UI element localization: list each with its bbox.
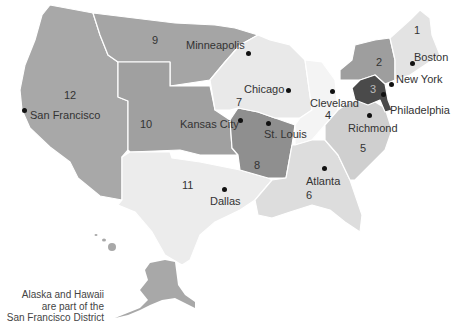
city-cleveland: Cleveland bbox=[310, 98, 359, 109]
chicago-dot-icon bbox=[286, 88, 291, 93]
district-3-number: 3 bbox=[370, 84, 376, 95]
district-8-number: 8 bbox=[254, 160, 260, 171]
city-kansas-city: Kansas City bbox=[180, 119, 239, 130]
district-1-region[interactable] bbox=[390, 10, 440, 80]
st-louis-dot-icon bbox=[266, 121, 271, 126]
hawaii-island bbox=[95, 234, 98, 236]
note-line-2: are part of the bbox=[2, 301, 104, 313]
district-6-number: 6 bbox=[306, 190, 312, 201]
district-2-number: 2 bbox=[376, 57, 382, 68]
city-atlanta: Atlanta bbox=[306, 176, 340, 187]
city-minneapolis: Minneapolis bbox=[186, 40, 245, 51]
cleveland-dot-icon bbox=[330, 89, 335, 94]
philadelphia-dot-icon bbox=[381, 92, 386, 97]
alaska-hawaii-note: Alaska and Hawaii are part of the San Fr… bbox=[2, 289, 104, 323]
district-11-number: 11 bbox=[182, 180, 193, 191]
district-9-number: 9 bbox=[152, 35, 158, 46]
city-new-york: New York bbox=[396, 74, 442, 85]
city-st-louis: St. Louis bbox=[264, 129, 307, 140]
city-philadelphia: Philadelphia bbox=[390, 105, 450, 116]
city-san-francisco: San Francisco bbox=[30, 110, 100, 121]
minneapolis-dot-icon bbox=[246, 51, 251, 56]
city-chicago: Chicago bbox=[244, 84, 284, 95]
district-4-number: 4 bbox=[325, 110, 331, 121]
richmond-dot-icon bbox=[367, 113, 372, 118]
note-line-1: Alaska and Hawaii bbox=[2, 289, 104, 301]
hawaii-island bbox=[102, 239, 106, 242]
san-francisco-dot-icon bbox=[22, 108, 27, 113]
alaska-region bbox=[115, 260, 195, 318]
district-1-number: 1 bbox=[414, 25, 420, 36]
district-5-number: 5 bbox=[360, 143, 366, 154]
city-boston: Boston bbox=[414, 52, 448, 63]
hawaii-region bbox=[108, 243, 116, 251]
district-7-number: 7 bbox=[236, 97, 242, 108]
district-12-number: 12 bbox=[64, 90, 76, 101]
note-line-3: San Francisco District bbox=[2, 312, 104, 323]
district-10-number: 10 bbox=[140, 119, 152, 130]
city-richmond: Richmond bbox=[348, 123, 398, 134]
atlanta-dot-icon bbox=[322, 166, 327, 171]
new-york-dot-icon bbox=[389, 82, 394, 87]
dallas-dot-icon bbox=[222, 187, 227, 192]
city-dallas: Dallas bbox=[210, 196, 241, 207]
